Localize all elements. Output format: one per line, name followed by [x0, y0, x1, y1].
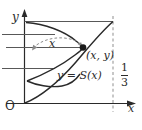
curve-equation-label: y = S(x)	[57, 70, 102, 81]
inner-arc-arrowhead-left	[32, 45, 37, 51]
fraction-numerator: 1	[121, 62, 128, 74]
y-axis-arrowhead	[22, 9, 28, 17]
fraction-denominator: 3	[121, 77, 128, 89]
curve-y-equals-S-of-x	[25, 22, 113, 104]
origin-label: O	[5, 100, 15, 112]
math-figure: y x O x (x, y) y = S(x) 1 3	[0, 0, 142, 130]
x-axis-label: x	[128, 103, 134, 114]
fraction-one-third: 1 3	[121, 62, 128, 88]
intersection-point-label: (x, y)	[86, 50, 114, 61]
y-axis-label: y	[12, 11, 19, 23]
inner-arc-label-x: x	[49, 38, 55, 49]
